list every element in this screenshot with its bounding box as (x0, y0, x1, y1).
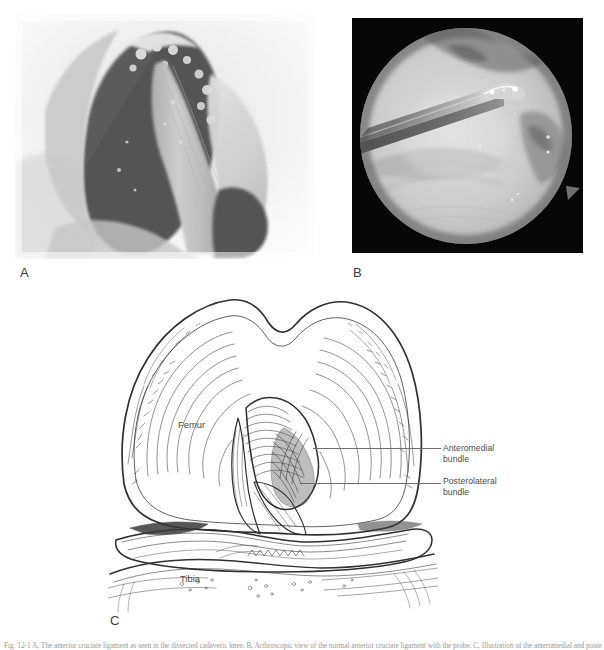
panel-c-knee-illustration: Femur Tibia (108, 288, 438, 613)
panel-letter-b: B (353, 266, 362, 279)
panel-letter-a: A (20, 266, 29, 279)
tibia-label: Tibia (180, 573, 201, 584)
panel-b-arthroscopic-photo (352, 18, 583, 253)
figure-caption: Fig. 12-1 A, The anterior cruciate ligam… (4, 641, 602, 650)
callout-anteromedial-bundle: Anteromedial bundle (443, 443, 494, 464)
cadaveric-photo-graphic (15, 14, 315, 259)
callout-posterolateral-bundle: Posterolateral bundle (443, 476, 497, 497)
leader-line-anteromedial (313, 448, 441, 449)
arthroscopic-photo-graphic (352, 18, 583, 253)
leader-line-posterolateral (300, 483, 441, 484)
knee-illustration-graphic: Femur Tibia (108, 288, 438, 613)
panel-a-cadaveric-photo (15, 14, 315, 259)
femur-label: Femur (178, 419, 205, 430)
panel-letter-c: C (110, 614, 120, 627)
figure-root: Femur Tibia Anteromedial bundle Posterol… (0, 0, 604, 650)
